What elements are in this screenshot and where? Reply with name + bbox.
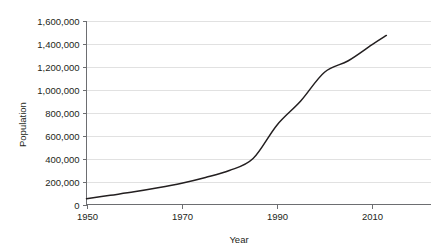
y-tick-label: 800,000 bbox=[45, 108, 79, 119]
y-tick-label: 200,000 bbox=[45, 177, 79, 188]
y-tick-label: 1,400,000 bbox=[37, 39, 79, 50]
y-axis-title: Population bbox=[17, 102, 28, 147]
y-tick-label: 0 bbox=[74, 200, 79, 211]
x-tick-label: 2010 bbox=[362, 211, 383, 222]
population-line-chart: 0200,000400,000600,000800,0001,000,0001,… bbox=[0, 0, 437, 252]
y-tick-label: 1,200,000 bbox=[37, 62, 79, 73]
chart-canvas: 0200,000400,000600,000800,0001,000,0001,… bbox=[0, 0, 437, 252]
x-tick-label: 1990 bbox=[267, 211, 288, 222]
y-tick-label: 400,000 bbox=[45, 154, 79, 165]
x-axis-title: Year bbox=[229, 234, 248, 245]
x-tick-label: 1950 bbox=[77, 211, 98, 222]
y-tick-label: 1,000,000 bbox=[37, 85, 79, 96]
y-tick-label: 1,600,000 bbox=[37, 16, 79, 27]
y-tick-label: 600,000 bbox=[45, 131, 79, 142]
x-tick-label: 1970 bbox=[172, 211, 193, 222]
